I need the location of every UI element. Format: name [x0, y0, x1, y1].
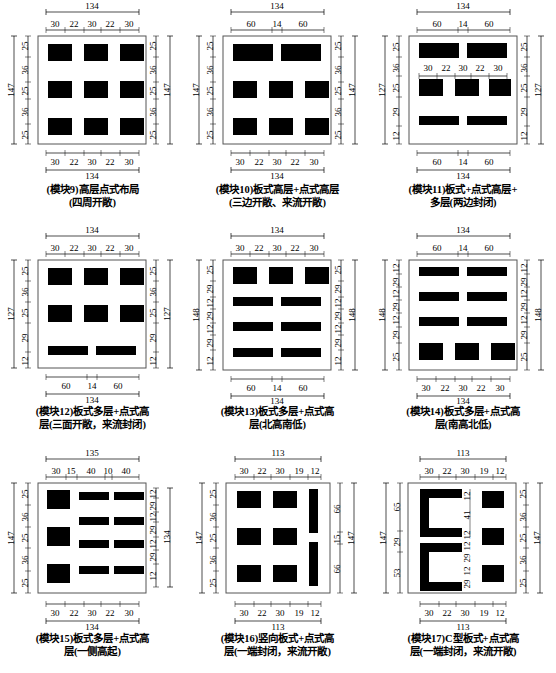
- m16-right-seg-0: 66: [332, 504, 342, 514]
- m11-right-seg-1: 36: [519, 63, 529, 73]
- module-15-plan: 135 30 15 40 10 40: [0, 447, 185, 630]
- module-9-caption: (模块9)高层点式布局 (四周开敞): [4, 184, 181, 209]
- m13-right-total: 148: [347, 308, 357, 322]
- module-12-plan: 134 30 22 30 22 30: [0, 224, 185, 404]
- m14-right-total: 148: [533, 308, 543, 322]
- m9-building: [48, 118, 72, 135]
- m14-building: [419, 343, 443, 360]
- m10-top-seg-2: 60: [299, 19, 309, 29]
- m9-right-seg-1: 36: [148, 65, 158, 75]
- module-12-figure: 134 30 22 30 22 30: [0, 224, 185, 404]
- m13-bot-seg-1: 14: [273, 383, 283, 393]
- m15-right-seg-0: 12: [148, 490, 158, 499]
- m11-top-seg-0: 60: [433, 19, 443, 29]
- m11-right-total: 127: [533, 83, 543, 97]
- m10-left-total: 147: [191, 83, 201, 97]
- m16-building-vertical: [309, 489, 318, 533]
- m9-top-total: 134: [85, 1, 99, 11]
- m14-bot-seg-2: 30: [459, 383, 469, 393]
- module-10-caption: (模块10)板式高层+点式高层 (三边开敞、来流开敞): [189, 184, 366, 209]
- m10-left-seg-3: 36: [205, 107, 215, 117]
- m10-left-seg-1: 36: [205, 65, 215, 75]
- m11-top-seg-2: 60: [485, 19, 495, 29]
- m12-left-seg-3: 29: [20, 333, 30, 343]
- m10-building: [281, 44, 321, 61]
- m9-top-seg-2: 30: [88, 19, 98, 29]
- m12-left-seg-2: 25: [20, 308, 30, 318]
- m17-inner-2: 12: [462, 531, 472, 540]
- m14-bot-total: 134: [456, 396, 470, 404]
- m11-left-seg-2: 25: [391, 83, 401, 93]
- m12-left-seg-0: 25: [20, 266, 30, 276]
- m13-left-seg-4: 12: [205, 325, 215, 334]
- m11-building: [467, 43, 507, 58]
- m11-left-seg-4: 12: [391, 132, 401, 141]
- m12-right-seg-1: 36: [148, 287, 158, 297]
- m10-bot-total: 134: [270, 171, 284, 180]
- m17-inner-6: 29: [462, 579, 472, 589]
- m16-top-total: 113: [271, 448, 285, 458]
- m11-building: [467, 116, 507, 125]
- m17-bot-seg-3: 19: [480, 608, 490, 618]
- module-17-figure: 113 30 22 30 19 12: [370, 447, 556, 630]
- m15-building: [114, 540, 144, 548]
- m11-building: [455, 79, 479, 96]
- module-17-caption-line2: 层(一端封闭，来流开敞): [374, 646, 552, 659]
- module-16-figure: 113 30 22 30 19 12: [185, 447, 370, 630]
- m15-building: [79, 492, 109, 500]
- m15-building: [114, 492, 144, 500]
- m9-right-seg-0: 25: [148, 41, 158, 51]
- m17-bot-seg-2: 30: [461, 608, 471, 618]
- m13-bot-seg-2: 60: [299, 383, 309, 393]
- m17-inner-4: 29: [462, 553, 472, 563]
- m9-right-total: 147: [162, 83, 172, 97]
- module-16-caption-line2: 层(一端封闭，来流开敞): [189, 646, 366, 659]
- m16-left-seg-4: 25: [208, 578, 218, 588]
- module-cell-10: 134 60 14 60 25: [185, 0, 370, 224]
- m11-right-seg-4: 12: [519, 132, 529, 141]
- m9-bot-seg-2: 30: [88, 157, 98, 167]
- m12-left-seg-4: 12: [20, 357, 30, 366]
- m10-building: [233, 44, 273, 61]
- m17-bot-seg-0: 30: [425, 608, 435, 618]
- module-12-caption-line2: 层(三面开敞，来流封闭): [4, 419, 181, 432]
- m12-top-seg-0: 30: [51, 243, 61, 253]
- m17-right-seg-3: 36: [518, 555, 528, 565]
- m12-left-seg-1: 36: [20, 287, 30, 297]
- m12-top-seg-4: 30: [125, 243, 135, 253]
- m15-right-seg-2: 12: [148, 513, 158, 522]
- m17-top-seg-1: 22: [443, 466, 452, 476]
- m17-top-seg-2: 30: [461, 466, 471, 476]
- module-15-figure: 135 30 15 40 10 40: [0, 447, 185, 630]
- module-cell-13: 134 30 22 30 22 30: [185, 224, 370, 447]
- module-13-plan: 134 30 22 30 22 30: [185, 224, 370, 404]
- m17-right-total: 147: [532, 531, 542, 545]
- m12-right-total: 127: [162, 307, 172, 321]
- m14-left-seg-2: 12: [391, 290, 401, 299]
- module-13-caption: (模块13)板式多层+点式高 层(北高南低): [189, 406, 366, 431]
- module-11-caption-line1: (模块11)板式+点式高层+: [374, 184, 552, 197]
- m13-building: [233, 267, 257, 284]
- m14-left-total: 148: [377, 308, 387, 322]
- m13-left-seg-5: 29: [205, 338, 215, 348]
- m9-building: [84, 118, 108, 135]
- m15-left-seg-0: 25: [20, 489, 30, 499]
- m10-building: [233, 81, 257, 98]
- m14-bot-seg-0: 30: [422, 383, 432, 393]
- m12-right-seg-0: 25: [148, 266, 158, 276]
- module-14-caption: (模块14)板式多层+点式高 层(南高北低): [374, 406, 552, 431]
- m15-right-seg-1: 29: [148, 501, 158, 511]
- m10-right-total: 147: [347, 83, 357, 97]
- m11-right-seg-2: 25: [519, 83, 529, 93]
- m16-building: [237, 491, 261, 508]
- m13-left-seg-0: 25: [205, 265, 215, 275]
- m9-left-seg-4: 25: [20, 130, 30, 140]
- m11-left-seg-3: 29: [391, 107, 401, 117]
- m10-top-total: 134: [270, 1, 284, 11]
- m14-top-seg-1: 14: [459, 243, 469, 253]
- m9-top-seg-3: 22: [106, 19, 115, 29]
- m10-left-seg-4: 25: [205, 130, 215, 140]
- m9-bot-seg-3: 22: [106, 157, 115, 167]
- m14-left-seg-3: 29: [391, 302, 401, 312]
- m10-building: [305, 81, 329, 98]
